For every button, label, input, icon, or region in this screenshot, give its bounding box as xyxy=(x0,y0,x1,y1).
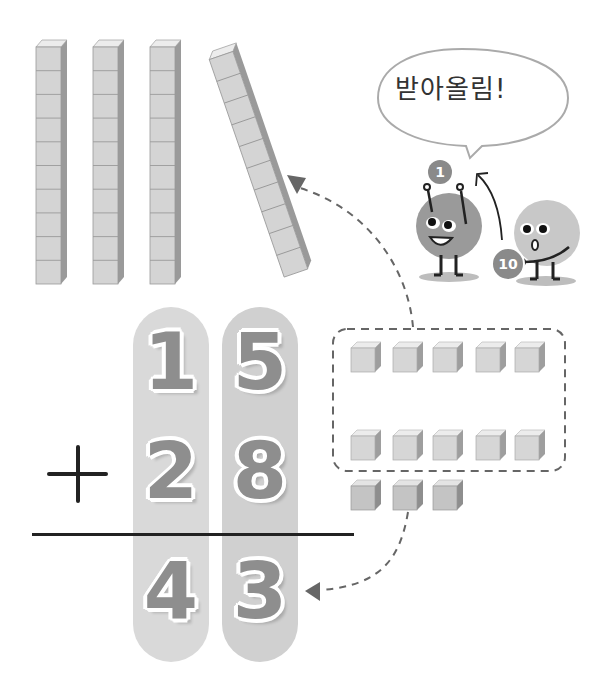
arrowhead-down xyxy=(305,582,320,601)
digit-bottom-ones: 8 xyxy=(222,426,298,516)
character-left xyxy=(416,184,482,282)
unit-cubes-row-2 xyxy=(351,430,545,460)
ones-arrow-down xyxy=(322,512,408,590)
regrouped-tens-rod xyxy=(207,43,313,277)
tens-rod-3 xyxy=(150,40,181,284)
diagram-canvas xyxy=(0,0,605,690)
digit-bottom-tens: 2 xyxy=(133,426,209,516)
digit-result-ones: 3 xyxy=(222,546,298,636)
ten-badge: 10 xyxy=(491,247,525,281)
digit-top-tens: 1 xyxy=(133,317,209,407)
character-right xyxy=(514,200,580,286)
arrowhead-up xyxy=(287,175,306,194)
digit-result-tens: 4 xyxy=(133,546,209,636)
unit-cubes-row-1 xyxy=(351,342,545,372)
tens-rod-1 xyxy=(36,40,67,284)
tens-rod-2 xyxy=(93,40,124,284)
speech-bubble-text: 받아올림! xyxy=(395,68,506,105)
regroup-arrow-up xyxy=(300,188,413,327)
plus-sign xyxy=(49,447,106,501)
remaining-unit-cubes xyxy=(351,480,463,510)
carry-badge-one: 1 xyxy=(428,160,452,184)
digit-top-ones: 5 xyxy=(222,317,298,407)
sum-line xyxy=(32,533,354,536)
